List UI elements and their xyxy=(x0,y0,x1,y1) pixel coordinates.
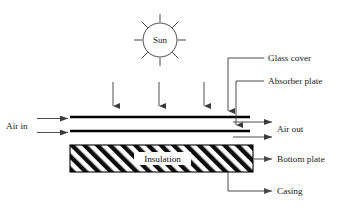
air-in-label: Air in xyxy=(6,121,28,131)
diagram-canvas: Sun Air in Air out xyxy=(0,0,346,210)
insulation-label: Insulation xyxy=(144,154,181,164)
casing-label: Casing xyxy=(277,186,303,196)
air-out-label: Air out xyxy=(277,124,304,134)
bottom-plate-label: Bottom plate xyxy=(277,154,325,164)
sun-group: Sun xyxy=(134,14,186,66)
glass-cover-label: Glass cover xyxy=(268,53,311,63)
solar-air-heater-diagram: Sun Air in Air out xyxy=(0,0,346,210)
diagram-background xyxy=(0,0,346,210)
absorber-plate-label: Absorber plate xyxy=(268,76,322,86)
insulation-block: Insulation xyxy=(70,145,253,172)
sun-label: Sun xyxy=(153,35,168,45)
